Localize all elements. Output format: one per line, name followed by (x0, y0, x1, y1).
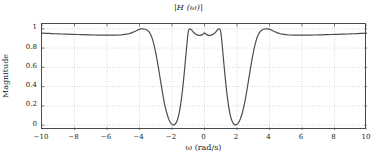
x-tick-label: 4 (256, 134, 282, 141)
x-tick-label: −2 (158, 134, 184, 141)
gridlines (42, 24, 367, 130)
x-axis-label: ω (rad/s) (41, 143, 366, 152)
x-tick-label: −8 (61, 134, 87, 141)
x-tick-label: 6 (288, 134, 314, 141)
x-tick-label: −4 (126, 134, 152, 141)
plot-canvas (42, 24, 367, 130)
x-tick-label: 8 (321, 134, 347, 141)
x-tick-label: −10 (28, 134, 54, 141)
plot-frame (41, 23, 366, 129)
x-tick-label: 0 (191, 134, 217, 141)
x-tick-label: 10 (353, 134, 377, 141)
chart-figure: |H (ω)| Magnitude 00.20.40.60.81 −10−8−6… (0, 0, 377, 159)
x-tick-label: −6 (93, 134, 119, 141)
x-tick-label: 2 (223, 134, 249, 141)
